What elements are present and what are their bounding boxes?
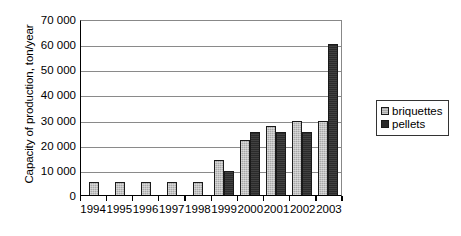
bar-pellets-2001	[276, 132, 286, 195]
x-axis-tick-labels: 1994199519961997199819992000200120022003	[80, 203, 342, 215]
x-axis-tick-label: 1994	[80, 203, 106, 215]
legend: briquettespellets	[376, 100, 449, 136]
x-axis-tick-label: 2000	[237, 203, 263, 215]
bar-group	[185, 21, 211, 195]
y-axis-tick-label: 30 000	[18, 115, 76, 127]
y-axis-tick-labels: 010 00020 00030 00040 00050 00060 00070 …	[18, 0, 76, 236]
plot-area	[80, 20, 342, 196]
legend-swatch-briquettes	[381, 107, 389, 115]
y-axis-tick-label: 50 000	[18, 64, 76, 76]
x-axis-tick-label: 1999	[211, 203, 237, 215]
legend-label-briquettes: briquettes	[392, 105, 443, 117]
x-axis-tick	[159, 196, 185, 202]
bar-briquettes-1998	[193, 182, 203, 195]
bar-group	[289, 21, 315, 195]
y-axis-tick-label: 10 000	[18, 165, 76, 177]
x-axis-tick-label: 1996	[132, 203, 158, 215]
bar-group	[211, 21, 237, 195]
bar-briquettes-2002	[292, 121, 302, 195]
x-axis-tick	[290, 196, 316, 202]
bar-group	[159, 21, 185, 195]
y-axis-tick-label: 40 000	[18, 89, 76, 101]
y-axis-tick-label: 70 000	[18, 14, 76, 26]
bar-group	[81, 21, 107, 195]
x-axis-tick-label: 2002	[290, 203, 316, 215]
bar-briquettes-1997	[167, 182, 177, 195]
bar-pellets-1999	[224, 171, 234, 195]
x-axis-tick	[132, 196, 158, 202]
x-axis-tick-label: 1997	[159, 203, 185, 215]
x-axis-tick	[80, 196, 106, 202]
bar-briquettes-2000	[240, 140, 250, 195]
legend-label-pellets: pellets	[392, 118, 425, 130]
x-axis-tick	[316, 196, 342, 202]
x-axis-tick-label: 2003	[316, 203, 342, 215]
bar-pellets-2003	[328, 44, 338, 195]
bar-briquettes-1996	[141, 182, 151, 195]
bar-briquettes-1995	[115, 182, 125, 195]
x-axis-tick	[185, 196, 211, 202]
x-axis-ticks	[80, 196, 342, 202]
x-axis-tick	[237, 196, 263, 202]
x-axis-tick	[211, 196, 237, 202]
x-axis-tick-label: 2001	[263, 203, 289, 215]
y-axis-tick-label: 60 000	[18, 39, 76, 51]
x-axis-tick-label: 1995	[106, 203, 132, 215]
bars-layer	[81, 21, 341, 195]
x-axis-tick	[263, 196, 289, 202]
bar-group	[315, 21, 341, 195]
bar-pellets-2000	[250, 132, 260, 195]
legend-swatch-pellets	[381, 120, 389, 128]
y-axis-tick-label: 0	[18, 190, 76, 202]
bar-group	[133, 21, 159, 195]
bar-briquettes-2001	[266, 126, 276, 195]
bar-group	[107, 21, 133, 195]
x-axis-tick-label: 1998	[185, 203, 211, 215]
bar-chart: Capacity of production, ton/year 010 000…	[0, 0, 461, 236]
bar-group	[263, 21, 289, 195]
bar-pellets-2002	[302, 132, 312, 195]
legend-item-briquettes: briquettes	[381, 105, 443, 117]
bar-briquettes-1999	[214, 160, 224, 195]
y-axis-tick-label: 20 000	[18, 140, 76, 152]
bar-briquettes-1994	[89, 182, 99, 195]
bar-group	[237, 21, 263, 195]
bar-briquettes-2003	[318, 121, 328, 195]
legend-item-pellets: pellets	[381, 118, 443, 130]
x-axis-tick	[106, 196, 132, 202]
